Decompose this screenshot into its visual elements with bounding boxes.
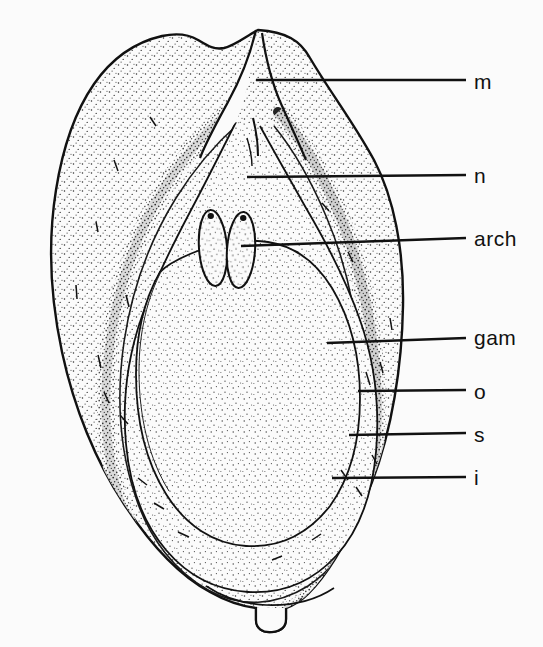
gametophyte-outline bbox=[136, 241, 360, 546]
gametophyte bbox=[136, 241, 360, 546]
label-arch: arch bbox=[474, 228, 517, 249]
label-i: i bbox=[474, 467, 479, 488]
leader-line-o bbox=[358, 390, 466, 391]
label-s: s bbox=[474, 424, 485, 445]
ovule-section-illustration bbox=[0, 0, 543, 647]
label-o: o bbox=[474, 381, 486, 402]
label-gam: gam bbox=[474, 327, 516, 348]
label-m: m bbox=[474, 71, 492, 92]
label-n: n bbox=[474, 165, 486, 186]
figure-page: m n arch gam o s i bbox=[0, 0, 543, 647]
leader-line-i bbox=[332, 477, 466, 478]
